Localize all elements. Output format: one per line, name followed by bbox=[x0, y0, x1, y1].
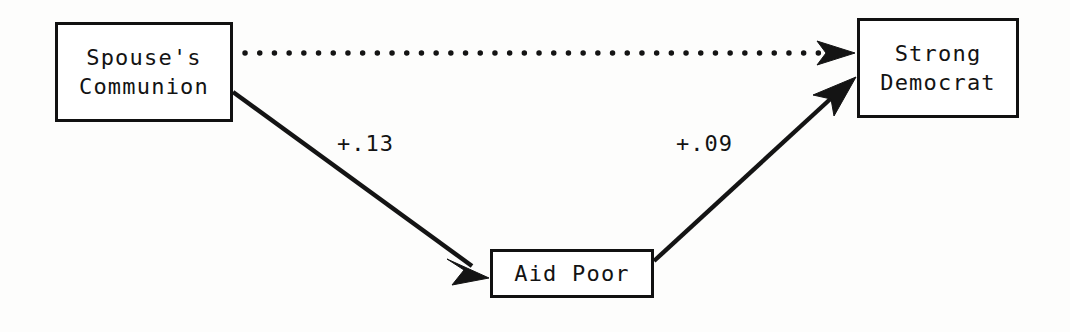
solid-connector-line-communion-aidpoor bbox=[233, 92, 472, 266]
solid-connector-line-aidpoor-democrat bbox=[654, 92, 838, 261]
node-spouse-communion-line2: Communion bbox=[79, 72, 209, 101]
edge-aidpoor-to-democrat-solid bbox=[654, 77, 856, 261]
node-aid-poor: Aid Poor bbox=[490, 249, 654, 298]
node-strong-democrat: Strong Democrat bbox=[857, 18, 1019, 118]
node-spouse-communion-line1: Spouse's bbox=[86, 43, 202, 72]
node-strong-democrat-line2: Democrat bbox=[880, 68, 996, 97]
node-aid-poor-line1: Aid Poor bbox=[514, 259, 630, 288]
arrowhead-into-strong-democrat-dotted bbox=[817, 41, 855, 65]
edge-communion-to-democrat-dotted bbox=[245, 41, 855, 65]
node-spouse-communion: Spouse's Communion bbox=[55, 22, 233, 122]
path-diagram: Spouse's Communion Aid Poor Strong Democ… bbox=[0, 0, 1070, 332]
edge-label-communion-to-aidpoor: +.13 bbox=[337, 131, 394, 156]
node-strong-democrat-line1: Strong bbox=[895, 39, 982, 68]
edge-label-aidpoor-to-democrat: +.09 bbox=[676, 131, 733, 156]
edge-communion-to-aidpoor-solid bbox=[233, 92, 489, 285]
